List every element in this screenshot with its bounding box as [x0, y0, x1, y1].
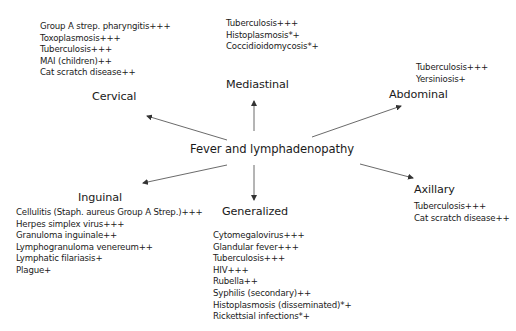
generalized-cause: Tuberculosis+++ — [213, 253, 351, 265]
cervical-cause: Toxoplasmosis+++ — [40, 33, 170, 45]
center-node: Fever and lymphadenopathy — [190, 142, 354, 156]
generalized-cause: Cytomegalovirus+++ — [213, 230, 351, 242]
inguinal-cause: Cellulitis (Staph. aureus Group A Strep.… — [16, 207, 203, 219]
generalized-cause: Rubella++ — [213, 276, 351, 288]
inguinal-causes-list: Cellulitis (Staph. aureus Group A Strep.… — [16, 207, 203, 277]
abdominal-label: Abdominal — [389, 88, 448, 101]
mediastinal-cause: Tuberculosis+++ — [226, 18, 319, 30]
mediastinal-cause: Coccidioidomycosis*+ — [226, 41, 319, 53]
arrow-to-abdominal — [312, 106, 401, 137]
abdominal-cause: Yersiniosis+ — [416, 74, 488, 86]
mediastinal-cause: Histoplasmosis*+ — [226, 30, 319, 42]
inguinal-cause: Lymphogranuloma venereum++ — [16, 242, 203, 254]
cervical-cause: Tuberculosis+++ — [40, 44, 170, 56]
inguinal-cause: Herpes simplex virus+++ — [16, 219, 203, 231]
generalized-label: Generalized — [222, 205, 288, 218]
arrow-to-cervical — [147, 116, 227, 140]
abdominal-cause: Tuberculosis+++ — [416, 62, 488, 74]
axillary-label: Axillary — [414, 183, 455, 196]
generalized-cause: HIV+++ — [213, 265, 351, 277]
inguinal-label: Inguinal — [78, 191, 122, 204]
inguinal-cause: Plague+ — [16, 265, 203, 277]
cervical-causes-list: Group A strep. pharyngitis+++ Toxoplasmo… — [40, 21, 170, 79]
generalized-cause: Syphilis (secondary)++ — [213, 288, 351, 300]
mediastinal-label: Mediastinal — [226, 78, 289, 91]
cervical-cause: Cat scratch disease++ — [40, 67, 170, 79]
generalized-causes-list: Cytomegalovirus+++ Glandular fever+++ Tu… — [213, 230, 351, 323]
cervical-cause: MAI (children)++ — [40, 56, 170, 68]
axillary-cause: Cat scratch disease++ — [414, 213, 510, 225]
arrow-to-axillary — [360, 164, 413, 178]
axillary-causes-list: Tuberculosis+++ Cat scratch disease++ — [414, 201, 510, 224]
cervical-label: Cervical — [92, 90, 136, 103]
generalized-cause: Rickettsial infections*+ — [213, 311, 351, 323]
axillary-cause: Tuberculosis+++ — [414, 201, 510, 213]
cervical-cause: Group A strep. pharyngitis+++ — [40, 21, 170, 33]
inguinal-cause: Lymphatic filariasis+ — [16, 253, 203, 265]
arrow-to-inguinal — [143, 165, 227, 183]
inguinal-cause: Granuloma inguinale++ — [16, 230, 203, 242]
generalized-cause: Glandular fever+++ — [213, 242, 351, 254]
mediastinal-causes-list: Tuberculosis+++ Histoplasmosis*+ Coccidi… — [226, 18, 319, 53]
abdominal-causes-list: Tuberculosis+++ Yersiniosis+ — [416, 62, 488, 85]
generalized-cause: Histoplasmosis (disseminated)*+ — [213, 300, 351, 312]
